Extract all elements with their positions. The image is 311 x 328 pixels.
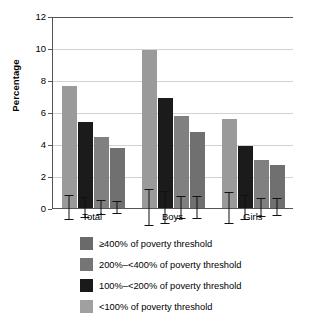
bar-chart-figure: Percentage 024681012 TotalBoysGirls ≥400… [0, 0, 311, 328]
error-bar-cap-upper [65, 195, 74, 196]
bar[interactable] [238, 146, 253, 208]
error-bar-cap-upper [113, 201, 122, 202]
bar[interactable] [110, 148, 125, 208]
error-bar-cap-upper [241, 195, 250, 196]
bar[interactable] [142, 50, 157, 208]
y-axis-tick-label: 6 [16, 108, 46, 118]
x-axis-tick-labels: TotalBoysGirls [52, 211, 293, 222]
bar-group [213, 17, 293, 208]
bar-group [133, 17, 213, 208]
y-axis-tick-label: 4 [16, 140, 46, 150]
error-bar-cap-upper [145, 189, 154, 190]
error-bar-cap-upper [225, 192, 234, 193]
legend-item[interactable]: 200%–<400% of poverty threshold [80, 254, 300, 275]
legend-label: ≥400% of poverty threshold [99, 239, 212, 249]
error-bar-cap-upper [257, 198, 266, 199]
legend-item[interactable]: <100% of poverty threshold [80, 296, 300, 317]
bar[interactable] [94, 137, 109, 208]
error-bar-cap-lower [161, 223, 170, 224]
error-bar-cap-lower [225, 223, 234, 224]
error-bar-cap-lower [145, 225, 154, 226]
bar[interactable] [78, 122, 93, 208]
error-bar-cap-upper [177, 196, 186, 197]
y-axis-tick-mark [48, 209, 52, 210]
chart-legend: ≥400% of poverty threshold200%–<400% of … [80, 233, 300, 317]
y-axis-tick-label: 0 [16, 204, 46, 214]
error-bar-cap-upper [193, 196, 202, 197]
legend-label: 100%–<200% of poverty threshold [99, 281, 241, 291]
legend-swatch [80, 300, 93, 313]
error-bar-cap-upper [81, 197, 90, 198]
legend-swatch [80, 237, 93, 250]
plot-area [52, 17, 293, 209]
error-bar-cap-upper [161, 191, 170, 192]
bar[interactable] [190, 132, 205, 208]
y-axis-tick-label: 12 [16, 12, 46, 22]
bar[interactable] [62, 86, 77, 208]
bar[interactable] [158, 98, 173, 208]
y-axis-tick-label: 2 [16, 172, 46, 182]
x-axis-tick-label: Girls [213, 211, 293, 222]
legend-item[interactable]: 100%–<200% of poverty threshold [80, 275, 300, 296]
legend-label: 200%–<400% of poverty threshold [99, 260, 241, 270]
bar[interactable] [254, 160, 269, 208]
legend-swatch [80, 258, 93, 271]
legend-swatch [80, 279, 93, 292]
x-axis-tick-label: Boys [132, 211, 212, 222]
y-axis-tick-label: 10 [16, 44, 46, 54]
x-axis-tick-label: Total [52, 211, 132, 222]
bar[interactable] [174, 116, 189, 208]
y-axis-tick-label: 8 [16, 76, 46, 86]
error-bar-cap-upper [97, 200, 106, 201]
bar-group [53, 17, 133, 208]
legend-label: <100% of poverty threshold [99, 302, 212, 312]
legend-item[interactable]: ≥400% of poverty threshold [80, 233, 300, 254]
bar-groups [53, 17, 293, 208]
bar[interactable] [270, 165, 285, 208]
error-bar-cap-upper [273, 198, 282, 199]
bar[interactable] [222, 119, 237, 208]
